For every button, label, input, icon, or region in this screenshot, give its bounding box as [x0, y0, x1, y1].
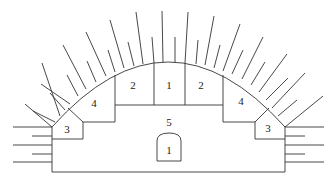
tunnel-diagram: 1 2 2 4 4 3 3 5 1	[0, 0, 333, 181]
label-right-haunch: 4	[238, 95, 244, 107]
label-right-wall: 3	[265, 122, 271, 134]
label-center-top: 1	[166, 79, 172, 91]
label-left-upper: 2	[130, 79, 136, 91]
label-core: 5	[166, 116, 172, 128]
label-pilot-tunnel: 1	[166, 144, 172, 156]
region-labels: 1 2 2 4 4 3 3 5 1	[64, 79, 271, 156]
label-right-upper: 2	[198, 79, 204, 91]
label-left-wall: 3	[64, 123, 70, 135]
label-left-haunch: 4	[91, 97, 97, 109]
